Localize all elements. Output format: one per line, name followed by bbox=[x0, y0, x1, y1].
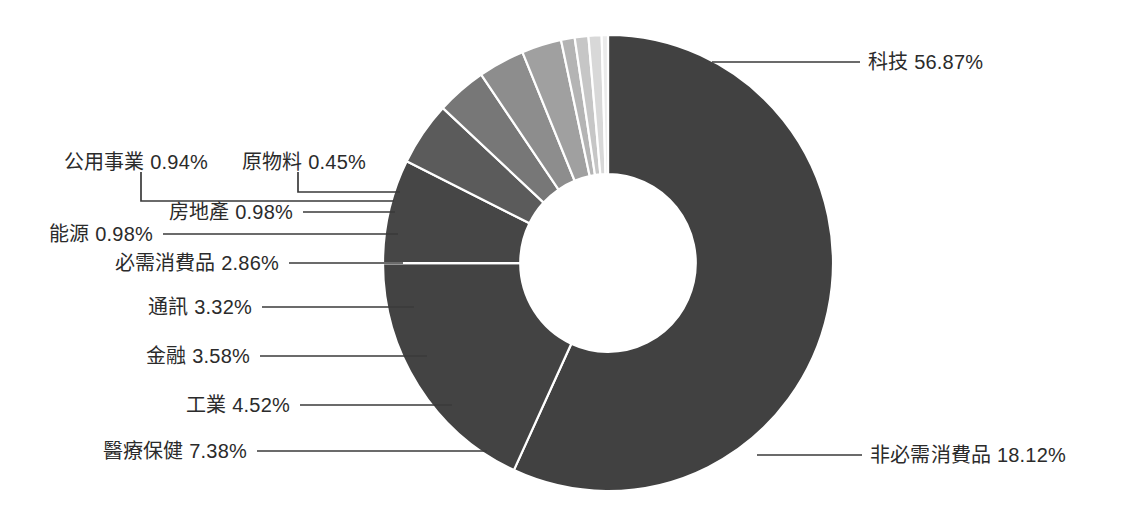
callout-technology: 科技 56.87% bbox=[868, 52, 983, 72]
callout-communication: 通訊 3.32% bbox=[148, 297, 252, 317]
callout-financials: 金融 3.58% bbox=[146, 346, 250, 366]
callout-healthcare: 醫療保健 7.38% bbox=[103, 441, 247, 461]
donut-slice-group bbox=[383, 35, 833, 491]
callout-energy: 能源 0.98% bbox=[49, 224, 153, 244]
callout-real-estate: 房地產 0.98% bbox=[169, 202, 293, 222]
callout-industrials: 工業 4.52% bbox=[186, 395, 290, 415]
callout-materials: 原物料 0.45% bbox=[242, 152, 366, 172]
leader-line-materials bbox=[298, 172, 400, 192]
leader-line-utilities bbox=[141, 172, 394, 201]
callout-cons-staples: 必需消費品 2.86% bbox=[115, 253, 279, 273]
callout-utilities: 公用事業 0.94% bbox=[64, 152, 208, 172]
callout-cons-discretionary: 非必需消費品 18.12% bbox=[870, 445, 1066, 465]
donut-chart-figure: 科技 56.87% 非必需消費品 18.12% 醫療保健 7.38% 工業 4.… bbox=[0, 0, 1128, 514]
